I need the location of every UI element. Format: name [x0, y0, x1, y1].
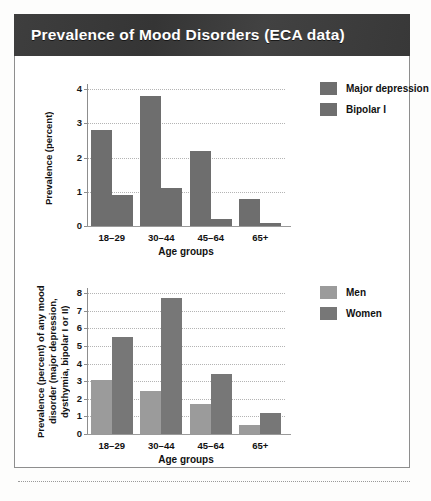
bar: [112, 337, 133, 434]
bar: [91, 380, 112, 434]
y-axis-tick-mark: [84, 293, 87, 294]
y-axis-tick-mark: [84, 399, 87, 400]
bar: [260, 223, 281, 226]
bar: [211, 219, 232, 226]
y-axis-tick-label: 0: [77, 221, 82, 231]
page-title: Prevalence of Mood Disorders (ECA data): [14, 26, 345, 44]
page-root: Prevalence of Mood Disorders (ECA data) …: [0, 0, 431, 501]
bar: [140, 391, 161, 434]
bar-group: [239, 87, 281, 226]
bar: [211, 374, 232, 434]
y-axis-tick-label: 3: [77, 376, 82, 386]
bar: [239, 199, 260, 226]
chart-2-plot-area: Age groups 01234567818–2930–4445–6465+: [87, 292, 285, 435]
chart-1-y-axis-title: Prevalence (percent): [43, 90, 55, 226]
y-axis-tick-label: 8: [77, 288, 82, 298]
y-axis-tick-label: 5: [77, 341, 82, 351]
y-axis-tick-label: 2: [77, 153, 82, 163]
y-axis-tick-mark: [84, 346, 87, 347]
bar: [239, 425, 260, 434]
chart-1-y-axis-line: [87, 84, 88, 227]
y-axis-tick-mark: [84, 192, 87, 193]
x-axis-tick-label: 45–64: [198, 232, 224, 243]
legend-label: Men: [346, 287, 366, 298]
y-axis-tick-mark: [84, 381, 87, 382]
bar: [161, 298, 182, 434]
x-axis-tick-label: 18–29: [99, 440, 125, 451]
legend-label: Bipolar I: [346, 104, 386, 115]
y-axis-tick-mark: [84, 158, 87, 159]
x-axis-tick-label: 30–44: [148, 232, 174, 243]
bar: [161, 188, 182, 226]
y-axis-tick-mark: [84, 364, 87, 365]
chart-1-x-axis-title: Age groups: [158, 246, 214, 257]
y-axis-tick-mark: [84, 416, 87, 417]
legend-swatch-icon: [320, 307, 337, 320]
footer-divider: [18, 481, 410, 482]
bar-group: [190, 87, 232, 226]
chart-2-x-axis-title: Age groups: [158, 454, 214, 465]
y-axis-tick-label: 0: [77, 429, 82, 439]
legend-label: Major depression: [346, 83, 429, 94]
y-axis-tick-label: 4: [77, 359, 82, 369]
chart-1-x-axis-line: [87, 226, 291, 227]
x-axis-tick-label: 65+: [252, 232, 268, 243]
y-axis-tick-label: 4: [77, 84, 82, 94]
legend-item-women: Women: [320, 307, 382, 320]
bar-group: [91, 291, 133, 434]
chart-2-y-axis-title: Prevalence (percent) of any mood disorde…: [35, 284, 75, 439]
y-axis-tick-mark: [84, 226, 87, 227]
legend-label: Women: [346, 308, 382, 319]
legend-swatch-icon: [320, 103, 337, 116]
bar-group: [239, 291, 281, 434]
bar: [112, 195, 133, 226]
x-axis-tick-label: 45–64: [198, 440, 224, 451]
y-axis-tick-mark: [84, 311, 87, 312]
legend-item-bipolar-i: Bipolar I: [320, 103, 429, 116]
y-axis-tick-mark: [84, 123, 87, 124]
chart-1-legend: Major depression Bipolar I: [320, 82, 429, 124]
y-axis-tick-label: 2: [77, 394, 82, 404]
bar-group: [140, 291, 182, 434]
title-banner: Prevalence of Mood Disorders (ECA data): [14, 14, 410, 56]
x-axis-tick-label: 30–44: [148, 440, 174, 451]
chart-1-plot-area: Age groups 0123418–2930–4445–6465+: [87, 88, 285, 227]
y-axis-tick-mark: [84, 328, 87, 329]
y-axis-tick-mark: [84, 89, 87, 90]
bar-group: [190, 291, 232, 434]
bar: [140, 96, 161, 226]
legend-swatch-icon: [320, 286, 337, 299]
legend-swatch-icon: [320, 82, 337, 95]
y-axis-tick-label: 1: [77, 412, 82, 422]
bar: [91, 130, 112, 226]
chart-2-legend: Men Women: [320, 286, 382, 328]
bar-group: [140, 87, 182, 226]
y-axis-tick-label: 1: [77, 187, 82, 197]
y-axis-tick-label: 3: [77, 119, 82, 129]
x-axis-tick-label: 65+: [252, 440, 268, 451]
chart-men-women-mood-disorder: Prevalence (percent) of any mood disorde…: [15, 278, 409, 466]
x-axis-tick-label: 18–29: [99, 232, 125, 243]
chart-major-depression-bipolar: Prevalence (percent) Age groups 0123418–…: [15, 74, 409, 259]
content-frame: Prevalence (percent) Age groups 0123418–…: [14, 56, 410, 468]
bar: [260, 413, 281, 434]
bar-group: [91, 87, 133, 226]
bar: [190, 404, 211, 434]
bar: [190, 151, 211, 226]
y-axis-tick-label: 7: [77, 306, 82, 316]
y-axis-tick-label: 6: [77, 324, 82, 334]
legend-item-men: Men: [320, 286, 382, 299]
y-axis-tick-mark: [84, 434, 87, 435]
legend-item-major-depression: Major depression: [320, 82, 429, 95]
chart-2-x-axis-line: [87, 434, 291, 435]
